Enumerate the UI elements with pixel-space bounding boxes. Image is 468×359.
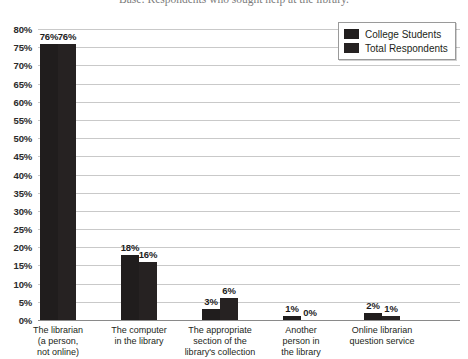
x-axis-label-line: (a person, xyxy=(19,336,97,347)
gridline xyxy=(38,320,460,321)
bar xyxy=(283,316,301,320)
gridline xyxy=(38,211,460,212)
bar-value-label: 16% xyxy=(139,249,157,260)
legend-swatch-total-respondents xyxy=(344,43,359,53)
gridline xyxy=(38,65,460,66)
gridline xyxy=(38,138,460,139)
x-axis-label-line: Another xyxy=(262,325,340,336)
x-axis-label-line: section of the xyxy=(172,336,268,347)
bar xyxy=(202,309,220,320)
gridline xyxy=(38,284,460,285)
gridline xyxy=(38,265,460,266)
x-axis-label-line: The appropriate xyxy=(172,325,268,336)
chart-legend: College Students Total Respondents xyxy=(338,22,456,60)
bar-value-label: 0% xyxy=(303,307,316,318)
y-axis-tick-label: 55% xyxy=(14,114,32,125)
bar-value-label: 2% xyxy=(366,300,379,311)
y-axis-tick-label: 10% xyxy=(14,278,32,289)
y-axis-tick-label: 20% xyxy=(14,242,32,253)
x-axis-label-line: question service xyxy=(343,336,421,347)
x-axis-category-label: Online librarianquestion service xyxy=(343,325,421,347)
y-axis-tick-label: 15% xyxy=(14,260,32,271)
bar xyxy=(364,313,382,320)
legend-label: Total Respondents xyxy=(365,43,448,54)
y-axis-tick-label: 50% xyxy=(14,133,32,144)
bar xyxy=(40,44,58,320)
x-axis-label-line: person in xyxy=(262,336,340,347)
y-axis-tick-label: 40% xyxy=(14,169,32,180)
bar xyxy=(121,255,139,320)
gridline xyxy=(38,84,460,85)
x-axis-label-line: the library xyxy=(262,347,340,358)
gridline xyxy=(38,120,460,121)
x-axis-label-line: The computer xyxy=(100,325,178,336)
x-axis-category-label: Anotherperson inthe library xyxy=(262,325,340,358)
bar xyxy=(139,262,157,320)
x-axis-label-line: in the library xyxy=(100,336,178,347)
bar-value-label: 76% xyxy=(58,31,76,42)
x-axis-label-line: Online librarian xyxy=(343,325,421,336)
plot-area: 80%75%70%65%60%55%50%45%40%35%30%25%20%1… xyxy=(38,29,460,320)
y-axis-tick-label: 25% xyxy=(14,224,32,235)
y-axis-tick-label: 45% xyxy=(14,151,32,162)
x-axis-label-line: library's collection xyxy=(172,347,268,358)
y-axis-tick-label: 30% xyxy=(14,205,32,216)
bar-value-label: 1% xyxy=(285,303,298,314)
bar-value-label: 6% xyxy=(222,285,235,296)
legend-item[interactable]: College Students xyxy=(344,27,448,41)
gridline xyxy=(38,229,460,230)
bar xyxy=(58,44,76,320)
bar-value-label: 1% xyxy=(384,303,397,314)
gridline xyxy=(38,193,460,194)
bar-value-label: 3% xyxy=(204,296,217,307)
y-axis-tick-label: 35% xyxy=(14,187,32,198)
legend-swatch-college-students xyxy=(344,29,359,39)
x-axis-category-label: The computerin the library xyxy=(100,325,178,347)
y-axis-tick-label: 65% xyxy=(14,78,32,89)
bar xyxy=(220,298,238,320)
chart-title: Base: Respondents who sought help at the… xyxy=(0,0,468,6)
y-axis-tick-label: 60% xyxy=(14,96,32,107)
y-axis-tick-label: 70% xyxy=(14,60,32,71)
legend-label: College Students xyxy=(365,29,441,40)
y-axis-tick-label: 80% xyxy=(14,24,32,35)
x-axis-label-line: not online) xyxy=(19,347,97,358)
x-axis-category-label: The librarian(a person,not online) xyxy=(19,325,97,358)
bar xyxy=(382,316,400,320)
gridline xyxy=(38,247,460,248)
bar-value-label: 18% xyxy=(121,242,139,253)
legend-item[interactable]: Total Respondents xyxy=(344,41,448,55)
gridline xyxy=(38,102,460,103)
x-axis-label-line: The librarian xyxy=(19,325,97,336)
y-axis-tick-label: 0% xyxy=(19,315,32,326)
y-axis-tick-label: 5% xyxy=(19,296,32,307)
y-axis-tick-label: 75% xyxy=(14,42,32,53)
bar-value-label: 76% xyxy=(40,31,58,42)
gridline xyxy=(38,156,460,157)
x-axis-category-label: The appropriatesection of thelibrary's c… xyxy=(172,325,268,358)
gridline xyxy=(38,175,460,176)
